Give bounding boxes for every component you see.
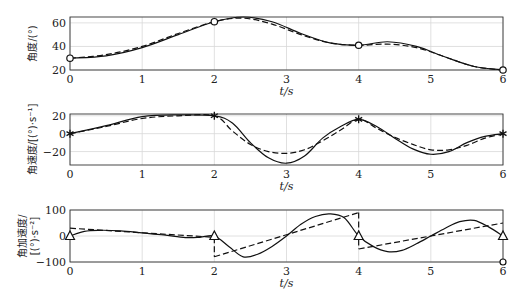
circle-marker bbox=[500, 259, 506, 265]
chart-canvas: 0123456204060t/s角度/(°)0123456−20020t/s角速… bbox=[0, 0, 517, 300]
y-tick-label: 100 bbox=[45, 204, 66, 217]
x-tick-label: 1 bbox=[139, 168, 146, 181]
x-tick-label: 4 bbox=[355, 73, 362, 86]
x-tick-label: 5 bbox=[427, 168, 434, 181]
x-tick-label: 5 bbox=[427, 265, 434, 278]
circle-marker bbox=[67, 55, 73, 61]
circle-marker bbox=[355, 42, 361, 48]
x-tick-label: 0 bbox=[67, 73, 74, 86]
y-tick-label: 20 bbox=[52, 110, 66, 123]
x-tick-label: 2 bbox=[211, 73, 218, 86]
x-axis-label: t/s bbox=[280, 85, 294, 98]
y-axis-label: 角加速度/[(°)·s⁻²] bbox=[16, 214, 40, 258]
x-axis-label: t/s bbox=[280, 277, 294, 290]
chart-panel-2: 0123456−20020t/s角速度/[(°)·s⁻¹] bbox=[26, 104, 507, 193]
grid-lines bbox=[70, 114, 503, 165]
y-axis-label: 角度/(°) bbox=[26, 25, 38, 61]
y-tick-label: 60 bbox=[52, 17, 66, 30]
x-tick-label: 6 bbox=[500, 168, 507, 181]
chart-panel-1: 0123456204060t/s角度/(°) bbox=[26, 17, 507, 98]
y-tick-label: −20 bbox=[43, 146, 66, 159]
y-tick-label: 0 bbox=[59, 230, 66, 243]
circle-marker bbox=[500, 67, 506, 73]
x-tick-label: 5 bbox=[427, 73, 434, 86]
y-tick-label: 40 bbox=[52, 40, 66, 53]
grid-lines bbox=[70, 17, 503, 70]
y-tick-label: 0 bbox=[59, 128, 66, 141]
x-axis-label: t/s bbox=[280, 180, 294, 193]
x-tick-label: 0 bbox=[67, 265, 74, 278]
circle-marker bbox=[211, 19, 217, 25]
x-tick-label: 2 bbox=[211, 265, 218, 278]
x-tick-label: 4 bbox=[355, 168, 362, 181]
triangle-marker bbox=[499, 231, 508, 240]
y-tick-label: −100 bbox=[36, 256, 66, 269]
x-tick-label: 0 bbox=[67, 168, 74, 181]
chart-panel-3: 0123456−1000100t/s角加速度/[(°)·s⁻²] bbox=[16, 204, 508, 290]
y-tick-label: 20 bbox=[52, 64, 66, 77]
x-tick-label: 6 bbox=[500, 265, 507, 278]
x-tick-label: 4 bbox=[355, 265, 362, 278]
x-tick-label: 1 bbox=[139, 73, 146, 86]
y-axis-label: 角速度/[(°)·s⁻¹] bbox=[26, 104, 38, 176]
x-tick-label: 1 bbox=[139, 265, 146, 278]
x-tick-label: 6 bbox=[500, 73, 507, 86]
x-tick-label: 2 bbox=[211, 168, 218, 181]
